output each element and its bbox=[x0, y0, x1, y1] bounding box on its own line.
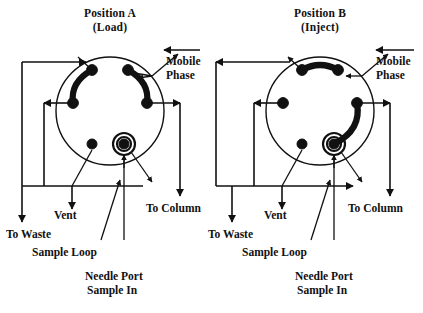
port-b-5 bbox=[297, 139, 307, 149]
panel-a-subtitle: (Load) bbox=[93, 21, 127, 34]
port-b-2 bbox=[333, 65, 344, 76]
sample-loop-label-b: Sample Loop bbox=[242, 246, 307, 259]
vent-label-a: Vent bbox=[54, 209, 77, 221]
port-b-4-needle bbox=[329, 139, 339, 149]
needle-port-label-b: Needle Port bbox=[295, 270, 353, 282]
to-column-label-b: To Column bbox=[348, 202, 403, 214]
mobile-phase-label2-a: Phase bbox=[166, 69, 195, 81]
needle-port-label-a: Needle Port bbox=[85, 270, 143, 282]
to-column-label-a: To Column bbox=[146, 202, 201, 214]
port-a-5 bbox=[87, 139, 97, 149]
needle-out-arrow-b bbox=[341, 152, 362, 182]
vent-label-b: Vent bbox=[264, 209, 287, 221]
diagram-canvas: Position A (Load) bbox=[0, 0, 423, 313]
panel-b-subtitle: (Inject) bbox=[301, 21, 339, 34]
mobile-phase-label2-b: Phase bbox=[376, 69, 405, 81]
sample-in-label-b: Sample In bbox=[297, 284, 348, 297]
port-a-4-needle bbox=[119, 139, 129, 149]
mobile-phase-label-b: Mobile bbox=[376, 55, 411, 67]
valve-diagram-figure: Position A (Load) bbox=[0, 0, 423, 313]
mobile-phase-label-a: Mobile bbox=[166, 55, 201, 67]
needle-out-arrow-a bbox=[131, 152, 152, 182]
valve-body-a bbox=[56, 57, 164, 165]
panel-position-b: Position B (Inject) bbox=[208, 7, 414, 297]
port-a-2 bbox=[123, 65, 134, 76]
sample-in-label-a: Sample In bbox=[87, 284, 138, 297]
panel-position-a: Position A (Load) bbox=[6, 7, 201, 297]
to-waste-label-a: To Waste bbox=[6, 228, 51, 240]
panel-b-title: Position B bbox=[294, 7, 346, 19]
sample-loop-label-a: Sample Loop bbox=[32, 246, 97, 259]
sample-loop-leader-a bbox=[101, 180, 120, 240]
panel-a-title: Position A bbox=[84, 7, 137, 19]
sample-loop-leader-b bbox=[311, 180, 330, 240]
to-waste-label-b: To Waste bbox=[208, 228, 253, 240]
